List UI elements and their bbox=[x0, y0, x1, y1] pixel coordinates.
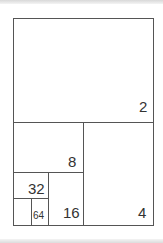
region-64-label: 64 bbox=[33, 211, 44, 221]
region-32-label: 32 bbox=[28, 181, 45, 196]
region-2 bbox=[13, 18, 154, 123]
region-2-label: 2 bbox=[139, 99, 147, 114]
region-4-label: 4 bbox=[138, 205, 146, 220]
region-8-label: 8 bbox=[68, 154, 76, 169]
region-remainder bbox=[13, 198, 32, 226]
region-16-label: 16 bbox=[63, 205, 80, 220]
top-edge-shadow bbox=[0, 0, 163, 4]
bottom-edge-shadow bbox=[0, 239, 163, 243]
